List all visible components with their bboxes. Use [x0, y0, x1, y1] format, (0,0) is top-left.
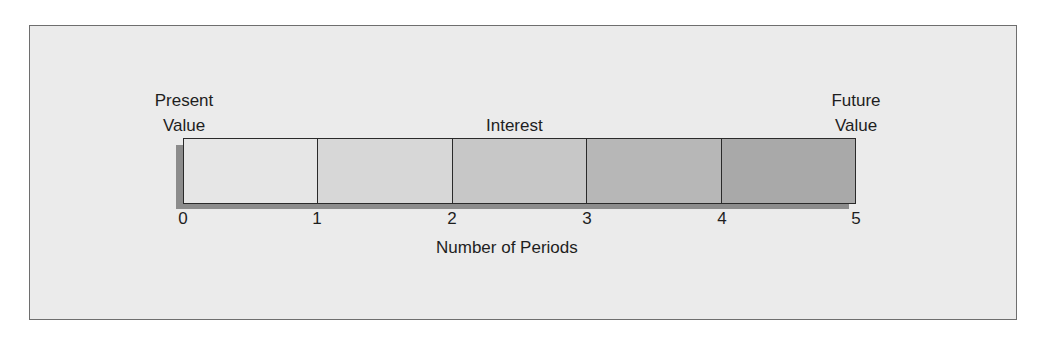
tick-label-2: 2 [437, 206, 467, 231]
future-value-label: Future Value [796, 88, 916, 138]
present-value-line2: Value [124, 113, 244, 138]
timeline-bar [183, 138, 856, 204]
period-segment-5 [722, 139, 855, 203]
future-value-line1: Future [796, 88, 916, 113]
period-segment-3 [453, 139, 587, 203]
tick-label-0: 0 [168, 206, 198, 231]
future-value-line2: Value [796, 113, 916, 138]
tick-label-3: 3 [572, 206, 602, 231]
tick-label-5: 5 [841, 206, 871, 231]
present-value-line1: Present [124, 88, 244, 113]
interest-label: Interest [486, 113, 543, 138]
x-axis-label: Number of Periods [436, 235, 578, 260]
tick-label-1: 1 [302, 206, 332, 231]
period-segment-4 [587, 139, 721, 203]
period-segment-2 [318, 139, 452, 203]
period-segment-1 [184, 139, 318, 203]
tick-label-4: 4 [707, 206, 737, 231]
present-value-label: Present Value [124, 88, 244, 138]
